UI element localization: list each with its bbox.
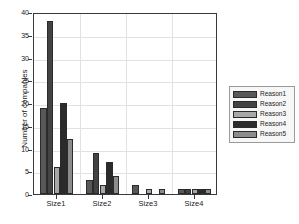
bar-size2-reason1 bbox=[86, 180, 92, 194]
bar-size2-reason4 bbox=[106, 162, 112, 194]
figure-canvas: Number of companies 0510152025303540 Siz… bbox=[0, 0, 299, 224]
legend-item-reason5[interactable]: Reason5 bbox=[233, 130, 291, 139]
bar-size4-reason3 bbox=[192, 189, 198, 194]
bar-size4-reason4 bbox=[198, 189, 204, 194]
gridline-vertical bbox=[172, 14, 173, 194]
y-tick-label: 15 bbox=[3, 123, 29, 130]
bar-size4-reason1 bbox=[178, 189, 184, 194]
legend-label-reason5: Reason5 bbox=[260, 131, 286, 138]
legend-label-reason2: Reason2 bbox=[260, 101, 286, 108]
x-tick-label-size4: Size4 bbox=[171, 200, 217, 208]
y-tick-label: 0 bbox=[3, 191, 29, 198]
legend-label-reason1: Reason1 bbox=[260, 91, 286, 98]
legend-label-reason4: Reason4 bbox=[260, 121, 286, 128]
y-tick-label: 10 bbox=[3, 146, 29, 153]
legend-swatch-reason1 bbox=[233, 91, 257, 98]
y-tick-label: 40 bbox=[3, 9, 29, 16]
gridline-horizontal bbox=[34, 37, 216, 38]
bar-size4-reason5 bbox=[205, 189, 211, 194]
legend-swatch-reason4 bbox=[233, 121, 257, 128]
legend-label-reason3: Reason3 bbox=[260, 111, 286, 118]
bar-size3-reason3 bbox=[146, 189, 152, 194]
legend-item-reason2[interactable]: Reason2 bbox=[233, 100, 291, 109]
plot-area bbox=[33, 13, 217, 195]
legend-swatch-reason5 bbox=[233, 131, 257, 138]
x-tick-label-size3: Size3 bbox=[125, 200, 171, 208]
legend-swatch-reason3 bbox=[233, 111, 257, 118]
legend-item-reason4[interactable]: Reason4 bbox=[233, 120, 291, 129]
bar-size1-reason1 bbox=[40, 108, 46, 194]
gridline-horizontal bbox=[34, 60, 216, 61]
legend-item-reason1[interactable]: Reason1 bbox=[233, 90, 291, 99]
bar-size4-reason2 bbox=[185, 189, 191, 194]
bar-size2-reason3 bbox=[100, 185, 106, 194]
y-tick-label: 20 bbox=[3, 100, 29, 107]
bar-size2-reason2 bbox=[93, 153, 99, 194]
x-tick-label-size1: Size1 bbox=[33, 200, 79, 208]
y-tick-label: 30 bbox=[3, 55, 29, 62]
legend[interactable]: Reason1Reason2Reason3Reason4Reason5 bbox=[229, 86, 295, 143]
y-tick-label: 25 bbox=[3, 77, 29, 84]
legend-item-reason3[interactable]: Reason3 bbox=[233, 110, 291, 119]
legend-swatch-reason2 bbox=[233, 101, 257, 108]
gridline-vertical bbox=[126, 14, 127, 194]
bar-size1-reason4 bbox=[60, 103, 66, 194]
y-tick-label: 5 bbox=[3, 168, 29, 175]
bar-size1-reason2 bbox=[47, 21, 53, 194]
bar-size1-reason5 bbox=[67, 139, 73, 194]
bar-size3-reason5 bbox=[159, 189, 165, 194]
x-tick-label-size2: Size2 bbox=[79, 200, 125, 208]
bar-size1-reason3 bbox=[54, 167, 60, 194]
gridline-vertical bbox=[80, 14, 81, 194]
bar-size2-reason5 bbox=[113, 176, 119, 194]
bar-size3-reason1 bbox=[132, 185, 138, 194]
y-tick-label: 35 bbox=[3, 32, 29, 39]
gridline-horizontal bbox=[34, 82, 216, 83]
